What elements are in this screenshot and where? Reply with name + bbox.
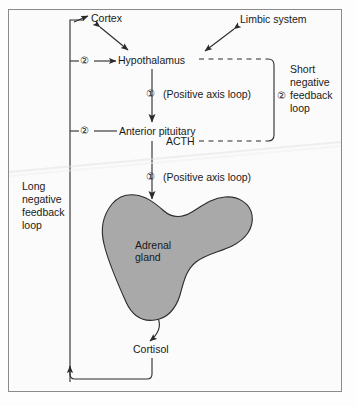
arrow-cortex-hypothalamus: [100, 27, 128, 50]
label-adrenal-gland-line2: gland: [135, 251, 161, 264]
marker-two-short-loop: ②: [277, 90, 286, 101]
label-cortex: Cortex: [91, 12, 122, 25]
label-short-negative-feedback-loop: Short negative feedback loop: [290, 63, 333, 115]
label-adrenal-gland-line1: Adrenal: [135, 239, 171, 252]
diagram-canvas: Cortex Limbic system Hypothalamus Anteri…: [0, 0, 356, 406]
marker-two-pituitary-loop: ②: [80, 125, 89, 136]
arrow-adrenal-cortisol: [150, 318, 159, 341]
label-acth: ACTH: [166, 135, 195, 148]
label-cortisol: Cortisol: [133, 343, 169, 356]
label-long-negative-feedback-loop: Long negative feedback loop: [22, 180, 65, 232]
marker-two-cortex-loop: ②: [80, 55, 89, 66]
label-hypothalamus: Hypothalamus: [118, 54, 185, 67]
short-loop-bracket: [268, 59, 274, 141]
arrowhead-to-cortex: [74, 16, 88, 22]
feedback-trunk-vertical: [70, 20, 83, 370]
marker-one-upper-axis: ①: [146, 88, 155, 99]
arrow-limbic-hypothalamus: [205, 29, 234, 51]
label-positive-axis-loop-lower: (Positive axis loop): [163, 171, 251, 184]
marker-one-lower-axis: ①: [146, 171, 155, 182]
adrenal-gland-shape: [102, 195, 252, 321]
label-limbic-system: Limbic system: [240, 13, 307, 26]
label-positive-axis-loop-upper: (Positive axis loop): [163, 88, 251, 101]
long-feedback-return-path: [70, 358, 152, 379]
